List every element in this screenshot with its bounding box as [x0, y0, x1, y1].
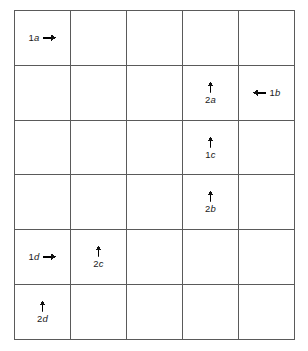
arrow-up-icon [207, 191, 214, 202]
grid-cell-r2c5: 1b [239, 65, 295, 120]
marker-1a: 1a [15, 33, 70, 43]
grid-cell-r5c5 [239, 230, 295, 285]
grid-row: 1a [15, 11, 295, 66]
arrow-left-icon [253, 89, 266, 96]
marker-1b: 1b [239, 88, 294, 98]
grid-cell-r6c3 [127, 285, 183, 340]
arrow-up-icon [207, 136, 214, 147]
grid-table: 1a 2a 1b 1c [14, 10, 295, 340]
grid-cell-r1c5 [239, 11, 295, 66]
grid-cell-r4c4: 2b [183, 175, 239, 230]
grid-row: 1c [15, 120, 295, 175]
marker-2a: 2a [183, 81, 238, 104]
grid-cell-r3c2 [71, 120, 127, 175]
grid-cell-r3c5 [239, 120, 295, 175]
marker-label: 1b [270, 88, 281, 98]
grid-cell-r1c2 [71, 11, 127, 66]
marker-2b: 2b [183, 191, 238, 214]
grid-cell-r4c3 [127, 175, 183, 230]
grid-cell-r4c1 [15, 175, 71, 230]
marker-label: 1c [205, 149, 215, 159]
figure-canvas: 1a 2a 1b 1c [0, 0, 308, 351]
grid-cell-r3c3 [127, 120, 183, 175]
grid-cell-r6c1: 2d [15, 285, 71, 340]
arrow-right-icon [43, 254, 56, 261]
arrow-up-icon [39, 301, 46, 312]
marker-1c: 1c [183, 136, 238, 159]
grid-cell-r5c4 [183, 230, 239, 285]
grid-row: 2d [15, 285, 295, 340]
grid-row: 2b [15, 175, 295, 230]
grid-cell-r6c4 [183, 285, 239, 340]
grid-cell-r1c3 [127, 11, 183, 66]
grid-cell-r1c4 [183, 11, 239, 66]
grid-row: 1d 2c [15, 230, 295, 285]
marker-label: 2b [205, 204, 216, 214]
marker-label: 2c [93, 259, 103, 269]
grid-cell-r5c1: 1d [15, 230, 71, 285]
marker-label: 2d [37, 314, 48, 324]
grid-cell-r6c2 [71, 285, 127, 340]
grid-row: 2a 1b [15, 65, 295, 120]
marker-label: 1a [29, 33, 40, 43]
grid-cell-r2c3 [127, 65, 183, 120]
marker-2d: 2d [15, 301, 70, 324]
grid-cell-r5c3 [127, 230, 183, 285]
grid-cell-r1c1: 1a [15, 11, 71, 66]
marker-label: 2a [205, 94, 216, 104]
grid-cell-r3c4: 1c [183, 120, 239, 175]
grid-cell-r2c1 [15, 65, 71, 120]
arrow-up-icon [95, 246, 102, 257]
marker-label: 1d [29, 252, 40, 262]
grid-cell-r4c5 [239, 175, 295, 230]
grid-cell-r6c5 [239, 285, 295, 340]
arrow-right-icon [43, 34, 56, 41]
grid-cell-r4c2 [71, 175, 127, 230]
marker-2c: 2c [71, 246, 126, 269]
grid-cell-r5c2: 2c [71, 230, 127, 285]
grid-body: 1a 2a 1b 1c [15, 11, 295, 340]
arrow-up-icon [207, 81, 214, 92]
marker-1d: 1d [15, 252, 70, 262]
grid-cell-r2c2 [71, 65, 127, 120]
grid-cell-r3c1 [15, 120, 71, 175]
grid-cell-r2c4: 2a [183, 65, 239, 120]
